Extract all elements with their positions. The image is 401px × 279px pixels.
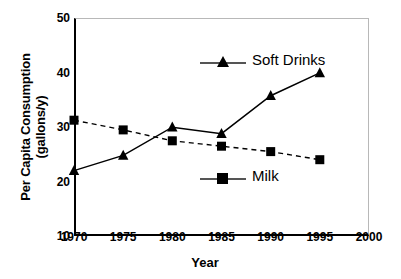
x-axis-title: Year [191,255,218,270]
series-line-soft-drinks [74,73,320,171]
legend-label-soft-drinks: Soft Drinks [252,51,325,68]
legend-label-milk: Milk [252,167,279,184]
series-markers-soft-drinks [69,67,325,175]
square-marker-icon [217,173,228,184]
triangle-marker-icon [217,56,229,67]
x-tick-label-2000: 2000 [339,231,399,243]
chart-figure: Per Capita Consumption (gallons/y) 50 40… [0,0,401,279]
series-markers-milk [70,116,325,165]
series-line-milk [74,120,320,160]
